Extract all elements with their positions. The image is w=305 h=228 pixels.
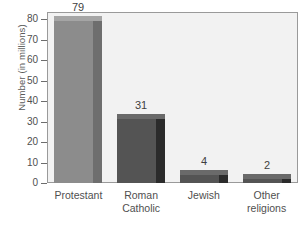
bar-top-bevel — [93, 16, 102, 21]
bar-top-bevel — [282, 174, 291, 179]
y-axis-tick-label: 80 — [8, 14, 38, 24]
bar-value-label: 79 — [44, 2, 112, 13]
bar-side-face — [282, 179, 291, 183]
y-axis-tick — [41, 19, 47, 20]
x-axis-category-label: Other religions — [229, 189, 304, 214]
y-axis-tick — [41, 60, 47, 61]
bar-top-bevel — [219, 170, 228, 175]
y-axis-tick-label: 40 — [8, 96, 38, 106]
bar-value-label: 4 — [170, 156, 238, 167]
y-axis-tick-label: 20 — [8, 137, 38, 147]
y-axis-tick-label: 0 — [8, 178, 38, 188]
y-axis-tick-label: 60 — [8, 55, 38, 65]
y-axis-tick — [41, 81, 47, 82]
y-axis-tick-label: 50 — [8, 76, 38, 86]
y-axis-tick — [41, 142, 47, 143]
bar-top-face — [117, 114, 156, 119]
y-axis-tick-label: 30 — [8, 117, 38, 127]
bar-top-face — [243, 174, 282, 179]
bar-side-face — [219, 175, 228, 183]
bar — [117, 119, 156, 183]
y-axis-tick — [41, 40, 47, 41]
y-axis-tick — [41, 183, 47, 184]
y-axis-tick-label: 70 — [8, 35, 38, 45]
bar-value-label: 31 — [107, 100, 175, 111]
bar-front-face — [180, 175, 219, 183]
y-axis-tick — [41, 101, 47, 102]
bar-side-face — [93, 21, 102, 183]
bar — [54, 21, 93, 183]
bar-top-face — [180, 170, 219, 175]
bar — [243, 179, 282, 183]
bar-front-face — [117, 119, 156, 183]
bar-top-bevel — [156, 114, 165, 119]
bar — [180, 175, 219, 183]
bar-chart-figure: Number (in millions) 01020304050607080 7… — [0, 0, 305, 228]
y-axis-tick — [41, 122, 47, 123]
bar-value-label: 2 — [233, 160, 301, 171]
bar-front-face — [54, 21, 93, 183]
y-axis-tick — [41, 163, 47, 164]
y-axis-tick-label: 10 — [8, 158, 38, 168]
bar-side-face — [156, 119, 165, 183]
bar-top-face — [54, 16, 93, 21]
bar-front-face — [243, 179, 282, 183]
